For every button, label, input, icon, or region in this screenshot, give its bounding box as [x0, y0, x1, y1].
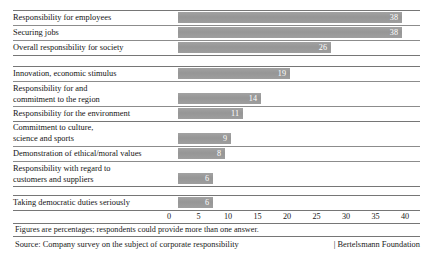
bar-row: Responsibility for the environment 11 — [13, 107, 420, 121]
divider-footnote — [13, 236, 420, 237]
bar: 6 — [178, 173, 213, 184]
bar-value-label: 38 — [390, 27, 398, 38]
bar-track: 14 — [169, 82, 420, 106]
divider-group — [13, 55, 420, 56]
bar-row: Commitment to culture, science and sport… — [13, 122, 420, 146]
bar-value-label: 6 — [205, 197, 209, 208]
bar: 9 — [178, 133, 231, 144]
bar-label: Demonstration of ethical/moral values — [13, 149, 167, 160]
x-tick-40: 40 — [401, 211, 409, 222]
bar-label: Taking democratic duties seriously — [13, 198, 163, 209]
bar: 8 — [178, 148, 225, 159]
bar-value-label: 19 — [278, 68, 286, 79]
bar-row: Innovation, economic stimulus 19 — [13, 67, 420, 81]
bar-row: Overall responsibility for society 26 — [13, 41, 420, 55]
x-tick-10: 10 — [224, 211, 232, 222]
bar: 6 — [178, 197, 213, 208]
bar-row: Responsibility for and commitment to the… — [13, 82, 420, 106]
bar-track: 6 — [169, 196, 420, 210]
bar: 38 — [178, 27, 402, 38]
chart-container: Responsibility for employees 38 Securing… — [0, 0, 436, 255]
bar-label: Responsibility for employees — [13, 13, 163, 24]
bar-track: 38 — [169, 26, 420, 40]
bar-value-label: 8 — [217, 148, 221, 159]
bar: 26 — [178, 42, 331, 53]
bar-track: 38 — [169, 11, 420, 25]
x-tick-25: 25 — [312, 211, 320, 222]
x-tick-30: 30 — [342, 211, 350, 222]
bar-label: Commitment to culture, science and sport… — [13, 123, 163, 144]
bar: 11 — [178, 108, 243, 119]
bar-track: 19 — [169, 67, 420, 81]
x-axis: 0 5 10 15 20 25 30 35 40 — [13, 211, 420, 223]
bar-value-label: 14 — [249, 93, 257, 104]
bar-label: Responsibility with regard to customers … — [13, 164, 163, 185]
bar-value-label: 11 — [231, 108, 239, 119]
bar-label: Overall responsibility for society — [13, 43, 163, 54]
bar-track: 9 — [169, 122, 420, 146]
bar-track: 26 — [169, 41, 420, 55]
bar-row: Securing jobs 38 — [13, 26, 420, 40]
bar-label: Responsibility for and commitment to the… — [13, 84, 163, 105]
bar: 14 — [178, 93, 261, 104]
footnote: Figures are percentages; respondents cou… — [15, 224, 259, 235]
bar-row: Responsibility with regard to customers … — [13, 162, 420, 186]
bar: 38 — [178, 12, 402, 23]
bar-track: 11 — [169, 107, 420, 121]
bar-label: Responsibility for the environment — [13, 109, 163, 120]
bar-track: 8 — [169, 147, 420, 161]
x-tick-5: 5 — [196, 211, 200, 222]
bar-label: Innovation, economic stimulus — [13, 69, 163, 80]
bar-label: Securing jobs — [13, 28, 163, 39]
divider-group — [13, 186, 420, 187]
bar-value-label: 9 — [223, 133, 227, 144]
x-tick-15: 15 — [253, 211, 261, 222]
publisher-credit: | Bertelsmann Foundation — [334, 239, 420, 250]
bar-row: Responsibility for employees 38 — [13, 11, 420, 25]
bar-value-label: 26 — [319, 42, 327, 53]
source-label: Source: Company survey on the subject of… — [15, 239, 239, 250]
bar-value-label: 6 — [205, 173, 209, 184]
bar-track: 6 — [169, 162, 420, 186]
bar: 19 — [178, 68, 290, 79]
bar-row: Demonstration of ethical/moral values 8 — [13, 147, 420, 161]
bar-value-label: 38 — [390, 12, 398, 23]
bar-row: Taking democratic duties seriously 6 — [13, 196, 420, 210]
x-tick-20: 20 — [283, 211, 291, 222]
x-tick-35: 35 — [371, 211, 379, 222]
x-tick-0: 0 — [167, 211, 171, 222]
